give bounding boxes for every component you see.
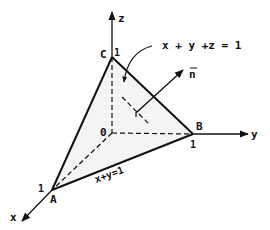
z-axis-label: z	[118, 12, 125, 25]
point-A-tick: 1	[38, 183, 44, 194]
point-B-tick: 1	[190, 139, 196, 150]
point-B-label: B	[196, 120, 203, 133]
plane-equation-label: x + y +z = 1	[162, 39, 242, 52]
origin-label: 0	[100, 126, 107, 139]
point-C-label: C	[100, 48, 107, 61]
point-A-label: A	[50, 193, 57, 206]
normal-vector-label: n	[189, 68, 197, 81]
x-axis-label: x	[10, 211, 17, 224]
x-axis	[22, 190, 52, 221]
diagram-canvas: z y x C 1 B 1 A 1 0 x + y +z = 1 x+y=1 n	[0, 0, 270, 230]
normal-vector-letter: n	[189, 68, 196, 81]
plane-diagram: z y x C 1 B 1 A 1 0 x + y +z = 1 x+y=1 n	[0, 0, 270, 230]
y-axis-label: y	[251, 128, 258, 141]
point-C-tick: 1	[114, 47, 120, 58]
